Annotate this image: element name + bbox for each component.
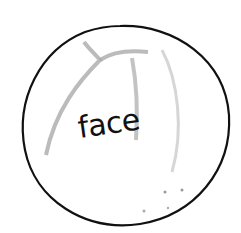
speck [164,191,167,194]
speck [167,207,169,209]
guide-curve-right [162,50,178,172]
speck [181,189,184,192]
guide-curve-top [100,51,148,60]
speck [143,210,146,213]
